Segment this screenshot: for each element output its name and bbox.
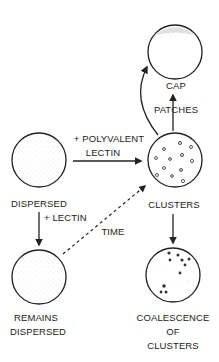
remains-label-line2: DISPERSED bbox=[6, 326, 70, 337]
clusters-cell bbox=[148, 133, 202, 187]
cap-label: CAP bbox=[160, 80, 192, 91]
lectin-edge-label: LECTIN bbox=[80, 147, 126, 158]
remains-label-line1: REMAINS bbox=[8, 312, 64, 323]
plus-lectin-label: + LECTIN bbox=[44, 212, 92, 223]
diagram-canvas bbox=[0, 0, 219, 362]
coalescence-cell bbox=[146, 248, 200, 302]
remains-dispersed-cell bbox=[12, 250, 66, 304]
curved-arrow-to-cap bbox=[141, 67, 158, 135]
time-label: TIME bbox=[98, 226, 128, 237]
dispersed-label: DISPERSED bbox=[4, 198, 74, 209]
cap-cell bbox=[148, 25, 202, 79]
coalescence-label-line2: OF bbox=[158, 326, 188, 337]
patches-label: PATCHES bbox=[148, 104, 204, 115]
polyvalent-label: + POLYVALENT bbox=[70, 133, 148, 144]
coalescence-label-line1: COALESCENCE bbox=[134, 312, 212, 323]
coalescence-label-line3: CLUSTERS bbox=[142, 340, 204, 351]
clusters-label: CLUSTERS bbox=[143, 199, 205, 210]
dispersed-cell bbox=[12, 133, 66, 187]
